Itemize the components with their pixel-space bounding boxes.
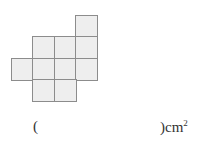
open-paren: ( [33,118,38,135]
square-grid-figure [0,0,197,110]
unit-exponent: 2 [183,118,188,128]
close-paren-unit: )cm [160,119,183,135]
grid-cell [54,79,77,102]
unit-label: )cm2 [160,118,188,136]
grid-cell [11,58,34,81]
grid-cell [54,58,77,81]
grid-cell [75,36,98,59]
grid-cell [54,36,77,59]
grid-cell [75,58,98,81]
grid-cell [75,15,98,38]
grid-cell [32,58,55,81]
grid-cell [32,79,55,102]
grid-cell [32,36,55,59]
answer-blank: ( )cm2 [0,118,197,138]
